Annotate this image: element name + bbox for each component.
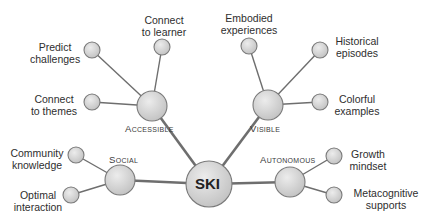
- leaf-label-optimal-interaction: Optimalinteraction: [10, 189, 66, 213]
- leaf-label-community-knowledge: Communityknowledge: [8, 147, 66, 171]
- leaf-label-connect-to-learner: Connectto learner: [137, 14, 191, 38]
- node-visible: [253, 90, 283, 120]
- leaf-label-predict-challenges: Predictchallenges: [30, 41, 80, 65]
- leaf-label-metacognitive-supports: Metacognitivesupports: [350, 187, 422, 211]
- leaf-community-knowledge: [68, 147, 84, 163]
- node-social: [105, 165, 135, 195]
- leaf-predict-challenges: [84, 42, 100, 58]
- center-label: SKI: [195, 175, 220, 192]
- leaf-colorful-examples: [312, 94, 328, 110]
- leaf-label-colorful-examples: Colorfulexamples: [330, 93, 384, 117]
- leaf-connect-to-themes: [84, 94, 100, 110]
- leaf-embodied-experiences: [241, 38, 257, 54]
- category-label-autonomous: Autonomous: [260, 154, 316, 165]
- leaf-label-growth-mindset: Growthmindset: [345, 148, 391, 172]
- leaf-historical-episodes: [312, 42, 328, 58]
- category-label-social: Social: [109, 154, 138, 165]
- leaf-metacognitive-supports: [326, 187, 342, 203]
- category-label-accessible: Accessible: [125, 123, 174, 134]
- leaf-label-historical-episodes: Historicalepisodes: [330, 35, 384, 59]
- category-label-visible: Visible: [250, 123, 280, 134]
- node-autonomous: [275, 167, 305, 197]
- leaf-growth-mindset: [326, 148, 342, 164]
- leaf-label-connect-to-themes: Connectto themes: [26, 93, 82, 117]
- leaf-connect-to-learner: [154, 39, 170, 55]
- node-accessible: [137, 91, 167, 121]
- leaf-label-embodied-experiences: Embodiedexperiences: [216, 12, 282, 36]
